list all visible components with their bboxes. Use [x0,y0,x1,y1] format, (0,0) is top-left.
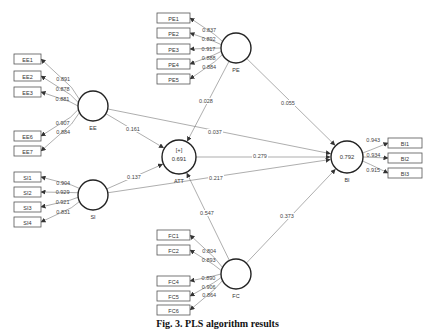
construct-label: PE [232,67,240,73]
outer-loading: 0.906 [202,284,216,290]
construct-label: EE [89,125,97,131]
outer-loading: 0.831 [56,209,70,215]
indicator-label: EE1 [22,57,32,63]
outer-loading: 0.881 [56,96,70,102]
indicator-label: PE2 [168,31,178,37]
path-coefficient: 0.373 [280,213,294,219]
indicator-label: FC5 [168,294,178,300]
outer-loading: 0.888 [202,55,216,61]
indicator-label: PE1 [168,16,178,22]
outer-loading: 0.878 [56,86,70,92]
construct-si [78,180,108,210]
indicator-label: EE6 [22,134,32,140]
outer-loading: 0.917 [202,46,216,52]
path-coefficient: 0.217 [209,175,223,181]
outer-loading: 0.934 [367,152,381,158]
outer-loading: 0.929 [56,189,70,195]
outer-loading: 0.864 [202,292,216,298]
path-coefficient: 0.161 [126,126,140,132]
construct-label: SI [90,214,96,220]
outer-loading: 0.890 [202,275,216,281]
outer-loading: 0.943 [366,137,380,143]
outer-loading: 0.915 [366,167,380,173]
indicator-label: SI2 [23,190,31,196]
indicator-label: BI3 [401,171,409,177]
path-coefficient: 0.279 [253,153,267,159]
construct-fc [221,259,251,289]
indicator-label: BI2 [401,156,409,162]
path-coefficient: 0.028 [199,98,213,104]
outer-loading: 0.892 [202,36,216,42]
construct-label: FC [232,293,239,299]
outer-loading: 0.891 [56,76,70,82]
path-coefficient: 0.037 [208,129,222,135]
indicator-label: PE4 [168,62,178,68]
r-squared-value: 0.792 [340,154,355,160]
construct-pe [221,33,251,63]
indicator-label: EE3 [22,90,32,96]
outer-loading: 0.893 [202,257,216,263]
indicator-label: BI1 [401,141,409,147]
indicator-label: EE2 [22,74,32,80]
indicator-label: PE5 [168,77,178,83]
path-coefficient: 0.137 [127,174,141,180]
outer-loading: 0.884 [56,129,70,135]
indicator-label: FC4 [168,279,178,285]
construct-label: ATT [174,178,185,184]
outer-loading: 0.904 [56,180,70,186]
construct-label: BI [344,177,350,183]
path-coefficient: 0.055 [281,100,295,106]
indicator-label: PE3 [168,47,178,53]
indicator-label: SI4 [23,220,31,226]
construct-ee [78,91,108,121]
indicator-label: FC6 [168,308,178,314]
formative-tag: [+] [176,147,183,153]
path-coefficient: 0.547 [200,210,214,216]
figure-caption: Fig. 3. PLS algorithm results [0,318,435,329]
outer-loading: 0.907 [56,120,70,126]
indicator-label: SI1 [23,175,31,181]
outer-loading: 0.884 [202,64,216,70]
indicator-label: SI3 [23,205,31,211]
pls-path-diagram: 0.0280.0550.1610.0370.1370.2170.2790.547… [0,0,435,329]
outer-loading: 0.921 [56,199,70,205]
indicator-label: FC2 [168,248,178,254]
r-squared-value: 0.691 [172,156,187,162]
indicator-label: FC1 [168,233,178,239]
indicator-label: EE7 [22,149,32,155]
outer-loading: 0.837 [202,27,216,33]
outer-loading: 0.804 [202,248,216,254]
